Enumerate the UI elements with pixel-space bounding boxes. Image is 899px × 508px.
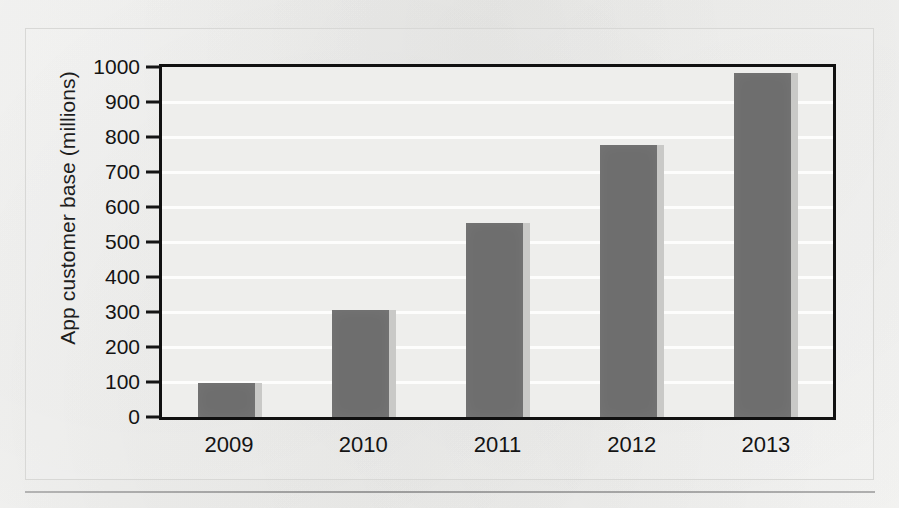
y-axis-tick-mark	[146, 381, 159, 384]
y-axis-tick-mark	[146, 311, 159, 314]
x-axis-tick-label: 2010	[339, 432, 388, 458]
y-axis-tick-label: 800	[105, 125, 140, 149]
y-axis-tick-mark	[146, 136, 159, 139]
y-axis-tick-label: 900	[105, 90, 140, 114]
bar-series	[162, 67, 833, 417]
y-axis-tick-mark	[146, 66, 159, 69]
y-axis-tick-label: 700	[105, 160, 140, 184]
y-axis-tick-label: 200	[105, 335, 140, 359]
x-axis-tick-label: 2009	[205, 432, 254, 458]
bar	[600, 145, 657, 417]
y-axis-tick-label: 300	[105, 300, 140, 324]
x-axis-tick-label: 2011	[474, 432, 521, 458]
bar	[734, 73, 791, 417]
x-axis-tick-label: 2013	[741, 432, 790, 458]
y-axis-tick-mark	[146, 346, 159, 349]
y-axis-tick-label: 1000	[93, 55, 140, 79]
y-axis-tick-mark	[146, 101, 159, 104]
plot-area	[159, 64, 836, 420]
y-axis-tick-mark	[146, 171, 159, 174]
y-axis-tick-label: 0	[128, 405, 140, 429]
bar	[198, 383, 255, 417]
y-axis-tick-marks	[146, 56, 160, 428]
x-axis-tick-labels: 20092010201120122013	[159, 432, 836, 466]
y-axis-tick-label: 600	[105, 195, 140, 219]
y-axis-tick-mark	[146, 241, 159, 244]
y-axis-tick-labels: 01002003004005006007008009001000	[82, 56, 140, 428]
y-axis-tick-mark	[146, 206, 159, 209]
y-axis-tick-mark	[146, 416, 159, 419]
y-axis-tick-label: 100	[105, 370, 140, 394]
y-axis-label: App customer base (millions)	[56, 28, 80, 388]
bar	[466, 223, 523, 417]
y-axis-tick-mark	[146, 276, 159, 279]
y-axis-tick-label: 500	[105, 230, 140, 254]
x-axis-tick-label: 2012	[607, 432, 656, 458]
bar	[332, 310, 389, 417]
bar-chart-figure: App customer base (millions) 01002003004…	[0, 0, 899, 508]
y-axis-tick-label: 400	[105, 265, 140, 289]
